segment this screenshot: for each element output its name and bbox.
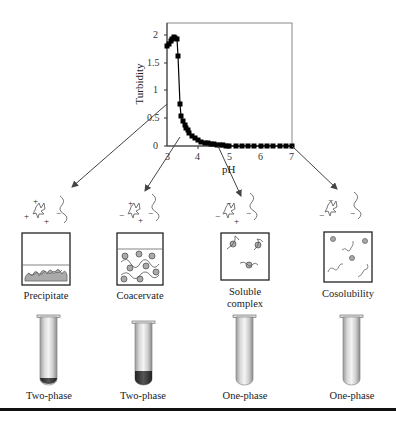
charge: −	[119, 209, 124, 221]
y-axis-label: Turbidity	[133, 63, 145, 104]
state-label-cosolubility: Cosolubility	[316, 288, 380, 300]
arrow-coacervate	[145, 137, 180, 191]
charge: −	[319, 209, 324, 221]
bottom-rule	[0, 408, 396, 411]
tube-label-4: One-phase	[322, 390, 382, 402]
charge: −	[215, 210, 220, 222]
charge: +	[234, 215, 239, 227]
y-tick-2: 2	[153, 30, 158, 40]
molecule-pairs	[33, 192, 361, 223]
state-label-coacervate: Coacervate	[112, 290, 168, 302]
box-soluble-complex	[221, 233, 269, 280]
data-markers	[165, 35, 295, 149]
state-label-precipitate: Precipitate	[18, 290, 74, 302]
arrows	[72, 104, 337, 196]
x-axis-label: pH	[222, 163, 235, 175]
x-tick-4: 4	[195, 152, 200, 162]
charge: +	[33, 195, 38, 207]
protein-polysaccharide-1	[33, 196, 67, 223]
charge: +	[138, 214, 143, 226]
charge: −	[350, 207, 355, 219]
x-tick-3: 3	[165, 152, 170, 162]
state-boxes	[22, 232, 372, 285]
turbidity-chart	[164, 23, 295, 149]
state-label-soluble: Soluble	[217, 286, 273, 298]
box-precipitate	[22, 233, 70, 285]
tube-cosolubility	[340, 315, 363, 385]
y-tick-1-5: 1.5	[147, 58, 160, 68]
tube-precipitate	[37, 315, 60, 385]
test-tubes	[37, 315, 363, 385]
x-tick-5: 5	[227, 152, 232, 162]
charge: −	[56, 207, 61, 219]
y-tick-1: 1	[153, 85, 158, 95]
tube-soluble-complex	[233, 315, 256, 385]
x-tick-7: 7	[289, 152, 294, 162]
x-tick-6: 6	[258, 152, 263, 162]
box-coacervate	[117, 233, 163, 285]
charge: +	[128, 197, 133, 209]
tube-label-1: Two-phase	[19, 390, 79, 402]
charge: −	[246, 207, 251, 219]
y-tick-0: 0	[153, 141, 158, 151]
arrow-cosolubility	[292, 146, 337, 189]
charge: −	[226, 197, 231, 209]
box-cosolubility	[324, 232, 372, 282]
tube-coacervate	[132, 321, 155, 385]
charge: +	[24, 210, 29, 222]
tube-label-3: One-phase	[215, 390, 275, 402]
charge: +	[44, 215, 49, 227]
charge: −	[148, 207, 153, 219]
state-label-complex: complex	[217, 298, 273, 310]
y-tick-0-5: 0.5	[147, 113, 160, 123]
tube-label-2: Two-phase	[113, 390, 173, 402]
charge: −	[328, 194, 333, 206]
